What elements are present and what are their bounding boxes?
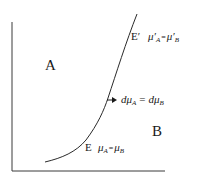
equals-sign: = bbox=[109, 144, 114, 153]
point-label-e: E bbox=[85, 142, 92, 153]
equation-d-mu: dμA=dμB bbox=[121, 94, 164, 107]
subscript-a: A bbox=[132, 99, 136, 107]
region-label-b: B bbox=[152, 124, 162, 139]
subscript-a: A bbox=[104, 147, 108, 155]
equals-sign: = bbox=[139, 93, 145, 105]
d-mu-b: dμ bbox=[149, 93, 160, 105]
coexistence-curve bbox=[45, 14, 137, 162]
equals-sign: = bbox=[161, 33, 166, 42]
subscript-b: B bbox=[120, 147, 124, 155]
subscript-b: B bbox=[160, 99, 164, 107]
subscript-b: B bbox=[175, 36, 179, 44]
equation-e: μA=μB bbox=[98, 142, 124, 155]
subscript-a: A bbox=[156, 36, 160, 44]
equation-e-prime: μ′A=μ′B bbox=[148, 31, 179, 44]
mu-prime-a: μ′ bbox=[148, 30, 156, 42]
d-mu-a: dμ bbox=[121, 93, 132, 105]
point-label-e-prime: E′ bbox=[131, 31, 140, 42]
region-label-a: A bbox=[45, 58, 56, 73]
mu-prime-b: μ′ bbox=[167, 30, 175, 42]
